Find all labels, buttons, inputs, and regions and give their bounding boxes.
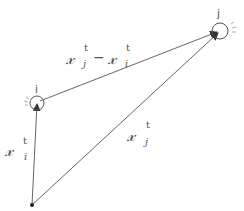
diff-base2: 𝓍 [108, 50, 116, 67]
xi-sub: i [24, 152, 27, 162]
diff-base1: 𝓍 [66, 50, 74, 67]
xj-sub: j [145, 137, 148, 147]
xi-sup: t [23, 136, 27, 146]
node-j-circle [212, 23, 228, 39]
diff-sup1: t [84, 43, 88, 53]
diff-sub1: j [83, 59, 86, 69]
node-j-label: j [217, 7, 220, 20]
xi-base: 𝓍 [5, 140, 13, 160]
label-xi-t: 𝓍 t i [5, 142, 35, 166]
label-diff: 𝓍 t j − 𝓍 t i [66, 50, 156, 74]
origin-dot [30, 203, 34, 207]
xj-base: 𝓍 [127, 125, 135, 145]
label-xj-t: 𝓍 t j [127, 127, 157, 151]
diff-minus: − [93, 50, 105, 64]
xj-sup: t [146, 120, 150, 130]
diff-sub2: i [125, 59, 128, 69]
vector-diagram [0, 0, 244, 211]
node-i-label: i [35, 83, 38, 96]
diff-sup2: t [126, 43, 130, 53]
node-j-glow-icon [231, 22, 236, 32]
node-i-glow-icon [24, 97, 29, 105]
